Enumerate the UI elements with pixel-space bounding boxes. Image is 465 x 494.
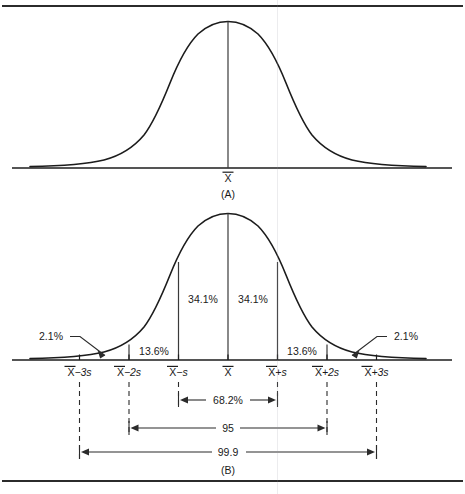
- svg-text:X−s: X−s: [169, 366, 188, 378]
- dimension-95-arrow-left: [131, 425, 139, 432]
- dimension-68-2-arrow-left: [180, 397, 188, 404]
- axis-label-base-0: X: [67, 366, 74, 378]
- svg-text:X: X: [224, 366, 231, 378]
- dimension-99-9-arrow-right: [367, 449, 375, 456]
- area-label-left-2sd: 13.6%: [139, 345, 169, 357]
- panel-b: 34.1% 34.1% 13.6% 13.6% 2.1% 2.1% X: [12, 214, 452, 477]
- axis-tick-label-minus1s: X−s: [167, 366, 188, 378]
- dimension-99-9-arrow-left: [81, 449, 89, 456]
- axis-label-suffix-5: +2s: [322, 366, 340, 378]
- axis-tick-label-minus3s: X−3s: [65, 366, 93, 378]
- axis-tick-label-plus3s: X+3s: [362, 366, 390, 378]
- svg-text:X+2s: X+2s: [315, 366, 340, 378]
- svg-text:X+3s: X+3s: [364, 366, 389, 378]
- svg-text:X−3s: X−3s: [67, 366, 92, 378]
- dimension-68-2: 68.2%: [179, 393, 278, 407]
- axis-label-base-6: X: [364, 366, 371, 378]
- axis-tick-label-plus2s: X+2s: [312, 366, 340, 378]
- dimension-99-9: 99.9: [80, 445, 377, 459]
- dimension-label-99-9: 99.9: [218, 446, 239, 458]
- axis-label-suffix-0: −3s: [74, 366, 92, 378]
- area-label-right-1sd: 34.1%: [238, 293, 268, 305]
- axis-label-suffix-2: −s: [176, 366, 188, 378]
- axis-tick-label-minus2s: X−2s: [114, 366, 142, 378]
- figure-canvas: X (A) 34.1% 34.1% 13.6% 13.6% 2.1%: [0, 0, 465, 494]
- svg-text:X+s: X+s: [268, 366, 287, 378]
- axis-label-base-1: X: [117, 366, 124, 378]
- axis-label-suffix-6: +3s: [371, 366, 389, 378]
- dimension-68-2-arrow-right: [268, 397, 276, 404]
- area-label-right-tail: 2.1%: [394, 330, 418, 342]
- panel-a-mean-label: X: [224, 172, 231, 184]
- panel-a-caption: (A): [221, 188, 235, 200]
- panel-b-caption: (B): [221, 464, 235, 476]
- axis-label-base-2: X: [169, 366, 176, 378]
- area-label-right-2sd: 13.6%: [287, 345, 317, 357]
- dimension-label-68-2: 68.2%: [213, 394, 243, 406]
- axis-label-base-5: X: [315, 366, 322, 378]
- area-label-left-1sd: 34.1%: [188, 293, 218, 305]
- normal-distribution-figure: X (A) 34.1% 34.1% 13.6% 13.6% 2.1%: [0, 0, 465, 494]
- axis-label-suffix-1: −2s: [124, 366, 142, 378]
- axis-tick-label-plus1s: X+s: [266, 366, 287, 378]
- axis-tick-label-mean: X: [223, 366, 234, 378]
- axis-label-suffix-4: +s: [275, 366, 287, 378]
- axis-label-base-4: X: [268, 366, 275, 378]
- axis-label-base-3: X: [224, 366, 231, 378]
- area-label-left-tail: 2.1%: [39, 330, 63, 342]
- dimension-label-95: 95: [222, 422, 234, 434]
- panel-a: X (A): [12, 22, 452, 201]
- dimension-95-arrow-right: [318, 425, 326, 432]
- dimension-95: 95: [129, 421, 327, 435]
- svg-text:X−2s: X−2s: [117, 366, 142, 378]
- panel-a-mean-xbar: X: [224, 172, 231, 184]
